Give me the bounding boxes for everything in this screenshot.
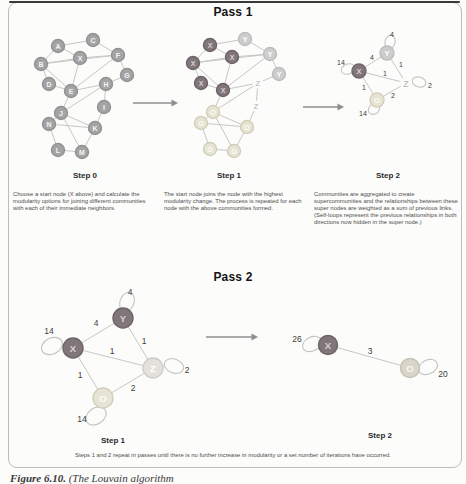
node-letter-Z: Z bbox=[150, 363, 156, 374]
flow-arrow bbox=[133, 100, 178, 107]
flow-arrow bbox=[206, 334, 258, 341]
weight-label: 1 bbox=[142, 336, 147, 346]
node-letter-L: O bbox=[207, 146, 213, 153]
self-loop bbox=[411, 75, 427, 88]
node-letter-C: Y bbox=[243, 36, 248, 43]
node-letter-X: X bbox=[230, 54, 235, 61]
weight-label: 14 bbox=[337, 59, 345, 66]
step1-label: Step 1 bbox=[174, 171, 284, 180]
weight-label: 26 bbox=[292, 334, 302, 344]
weight-label: 2 bbox=[185, 365, 190, 375]
weight-label: 1 bbox=[399, 61, 403, 68]
step2-label: Step 2 bbox=[333, 171, 443, 180]
weight-label: 2 bbox=[428, 82, 432, 89]
node-letter-O: O bbox=[99, 393, 106, 404]
node-letter-C: C bbox=[90, 37, 95, 44]
weight-label: 14 bbox=[44, 326, 54, 336]
node-letter-X: X bbox=[78, 55, 83, 62]
self-loop bbox=[39, 334, 66, 358]
weight-label: 4 bbox=[128, 287, 133, 297]
weight-label: 1 bbox=[383, 70, 387, 77]
node-letter-J: J bbox=[59, 110, 63, 117]
graph-pass1-step1: XYYXXYXXZZOOOOO bbox=[187, 33, 286, 158]
step2-caption: Communities are aggregated to create sup… bbox=[314, 191, 460, 226]
node-letter-X: X bbox=[356, 67, 361, 76]
node-letter-I: Z bbox=[254, 102, 259, 111]
node-letter-E: X bbox=[221, 87, 226, 94]
node-letter-H: Z bbox=[256, 79, 261, 88]
graph-pass1-step2: YXZO41421441112 bbox=[337, 31, 432, 117]
weight-label: 3 bbox=[368, 346, 373, 356]
weight-label: 14 bbox=[359, 110, 367, 117]
weight-label: 2 bbox=[131, 383, 136, 393]
node-letter-Y: Y bbox=[120, 313, 127, 324]
step0-label: Step 0 bbox=[30, 171, 140, 180]
node-letter-Y: Y bbox=[384, 49, 389, 58]
pass1-title: Pass 1 bbox=[0, 5, 466, 19]
node-letter-L: L bbox=[56, 147, 61, 154]
weight-label: 4 bbox=[390, 31, 394, 38]
self-loop bbox=[162, 356, 186, 376]
graph-pass2-step2: XO26203 bbox=[292, 333, 448, 379]
figure-caption: Figure 6.10. (The Louvain algorithm bbox=[10, 472, 450, 484]
node-letter-A: X bbox=[208, 42, 213, 49]
bottom-caption: Steps 1 and 2 repeat in passes until the… bbox=[10, 452, 456, 458]
flow-arrow-head bbox=[252, 334, 259, 341]
node-letter-M: M bbox=[79, 149, 85, 156]
node-letter-X: X bbox=[325, 340, 332, 351]
weight-label: 4 bbox=[94, 318, 99, 328]
node-letter-K: O bbox=[244, 124, 250, 131]
node-letter-G: G bbox=[124, 72, 130, 79]
node-letter-E: E bbox=[69, 88, 74, 95]
node-letter-J: O bbox=[210, 109, 216, 116]
graph-pass2-step1: YXZO41421441112 bbox=[39, 287, 190, 429]
node-letter-N: N bbox=[46, 121, 51, 128]
weight-label: 1 bbox=[362, 84, 366, 91]
weight-label: 20 bbox=[438, 369, 448, 379]
flow-arrow-head bbox=[338, 104, 345, 111]
graph-pass1-step0: ACFBXGDEHIJNKLM bbox=[35, 34, 134, 159]
node-letter-G: Y bbox=[277, 71, 282, 78]
node-letter-F: Y bbox=[268, 51, 273, 58]
node-letter-K: K bbox=[92, 125, 97, 132]
node-letter-F: F bbox=[116, 52, 121, 59]
node-letter-Z: Z bbox=[403, 79, 409, 89]
node-letter-O: O bbox=[374, 96, 380, 105]
weight-label: 1 bbox=[110, 346, 115, 356]
flow-arrow-head bbox=[172, 100, 179, 107]
node-letter-B: X bbox=[191, 60, 196, 67]
step1-caption: The start node joins the node with the h… bbox=[164, 191, 305, 212]
pass2-step2-label: Step 2 bbox=[325, 431, 435, 440]
flow-arrow bbox=[303, 104, 344, 111]
weight-label: 14 bbox=[77, 414, 87, 424]
pass2-step1-label: Step 1 bbox=[58, 436, 168, 445]
pass2-title: Pass 2 bbox=[0, 270, 466, 284]
node-letter-I: I bbox=[103, 104, 105, 111]
node-letter-B: B bbox=[38, 61, 43, 68]
figure-caption-text: (The Louvain algorithm bbox=[66, 472, 174, 484]
weight-label: 1 bbox=[78, 370, 83, 380]
node-letter-X: X bbox=[70, 343, 77, 354]
node-letter-A: A bbox=[55, 43, 60, 50]
node-letter-O: O bbox=[406, 363, 413, 374]
weight-label: 4 bbox=[370, 54, 374, 61]
node-letter-D: X bbox=[199, 80, 204, 87]
step0-caption: Choose a start node (X above) and calcul… bbox=[13, 191, 154, 212]
node-letter-N: O bbox=[198, 120, 204, 127]
weight-label: 2 bbox=[391, 92, 395, 99]
figure-caption-number: Figure 6.10. bbox=[10, 472, 66, 484]
node-letter-M: O bbox=[231, 148, 237, 155]
node-letter-H: H bbox=[103, 81, 108, 88]
node-letter-D: D bbox=[46, 81, 51, 88]
